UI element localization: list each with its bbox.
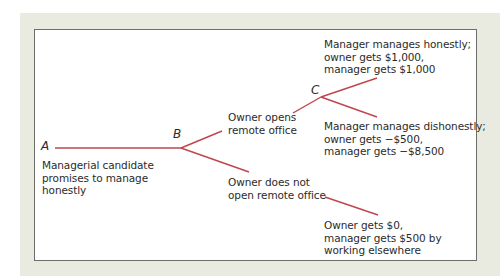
node-b-label: B bbox=[173, 127, 181, 141]
no-office-outcome-label: Owner gets $0, manager gets $500 by work… bbox=[324, 219, 442, 257]
not-open-office-label: Owner does not open remote office bbox=[228, 176, 326, 201]
branch-b-not-open-office bbox=[181, 148, 249, 172]
node-a-label: A bbox=[41, 139, 49, 153]
dishonest-outcome-label: Manager manages dishonestly; owner gets … bbox=[324, 120, 486, 158]
branch-to-c bbox=[293, 97, 321, 113]
open-office-label: Owner opens remote office bbox=[228, 111, 297, 136]
node-c-label: C bbox=[311, 83, 319, 97]
start-label: Managerial candidate promises to manage … bbox=[42, 159, 154, 197]
branch-c-dishonest bbox=[321, 97, 377, 117]
honest-outcome-label: Manager manages honestly; owner gets $1,… bbox=[324, 38, 471, 76]
branch-b-open-office bbox=[181, 131, 222, 148]
branch-c-honest bbox=[321, 78, 377, 97]
branch-no-office-outcome bbox=[325, 197, 378, 215]
